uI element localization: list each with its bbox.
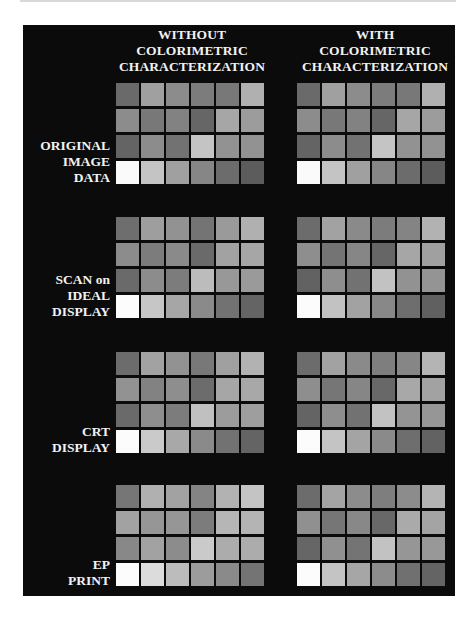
color-patch: [397, 404, 420, 427]
color-patch: [216, 511, 239, 534]
color-patch: [166, 135, 189, 158]
color-patch: [216, 537, 239, 560]
color-patch: [422, 217, 445, 240]
color-patch: [166, 83, 189, 106]
color-patch: [422, 430, 445, 453]
row-label-ep: EP PRINT: [23, 557, 110, 589]
column-header-line: COLORIMETRIC: [116, 43, 268, 59]
color-patch: [166, 269, 189, 292]
color-patch: [216, 135, 239, 158]
color-patch: [141, 109, 164, 132]
color-patch: [141, 537, 164, 560]
color-patch: [116, 563, 139, 586]
color-patch: [322, 83, 345, 106]
color-patch: [241, 135, 264, 158]
color-patch: [166, 161, 189, 184]
color-patch: [216, 269, 239, 292]
row-label-line: IMAGE: [23, 154, 110, 170]
color-patch: [397, 83, 420, 106]
color-patch: [322, 109, 345, 132]
color-patch: [297, 243, 320, 266]
color-patch: [347, 109, 370, 132]
color-patch: [116, 537, 139, 560]
color-patch: [372, 83, 395, 106]
color-patch: [116, 378, 139, 401]
color-patch: [191, 295, 214, 318]
color-patch: [141, 430, 164, 453]
color-patch: [191, 511, 214, 534]
color-patch: [397, 161, 420, 184]
color-patch: [241, 295, 264, 318]
color-patch: [297, 352, 320, 375]
color-patch: [241, 83, 264, 106]
color-patch: [166, 295, 189, 318]
color-patch: [166, 378, 189, 401]
color-patch: [141, 269, 164, 292]
color-patch: [166, 404, 189, 427]
color-patch: [166, 217, 189, 240]
color-patch: [141, 243, 164, 266]
color-patch: [347, 269, 370, 292]
color-patch: [372, 217, 395, 240]
color-patch: [166, 430, 189, 453]
color-patch: [166, 563, 189, 586]
color-patch: [141, 404, 164, 427]
color-patch: [322, 295, 345, 318]
color-patch: [422, 352, 445, 375]
color-patch: [141, 83, 164, 106]
color-patch: [241, 537, 264, 560]
patch-grid-ep-without: [116, 485, 264, 586]
color-patch: [166, 109, 189, 132]
row-label-line: ORIGINAL: [23, 138, 110, 154]
color-patch: [166, 485, 189, 508]
column-header-line: CHARACTERIZATION: [297, 59, 453, 75]
color-patch: [116, 269, 139, 292]
color-patch: [216, 404, 239, 427]
color-patch: [397, 378, 420, 401]
color-patch: [141, 135, 164, 158]
color-patch: [216, 378, 239, 401]
column-header-line: WITH: [297, 27, 453, 43]
color-patch: [141, 217, 164, 240]
color-patch: [166, 537, 189, 560]
column-header-line: WITHOUT: [116, 27, 268, 43]
color-patch: [191, 135, 214, 158]
color-patch: [191, 485, 214, 508]
color-patch: [347, 295, 370, 318]
patch-grid-ep-with: [297, 485, 445, 586]
color-patch: [241, 243, 264, 266]
color-patch: [397, 511, 420, 534]
color-patch: [116, 217, 139, 240]
color-patch: [116, 404, 139, 427]
color-patch: [241, 404, 264, 427]
patch-grid-original-with: [297, 83, 445, 184]
color-patch: [241, 563, 264, 586]
color-patch: [397, 537, 420, 560]
color-patch: [397, 243, 420, 266]
color-patch: [322, 511, 345, 534]
color-patch: [297, 269, 320, 292]
color-patch: [422, 404, 445, 427]
color-patch: [397, 109, 420, 132]
color-patch: [116, 109, 139, 132]
color-patch: [191, 161, 214, 184]
color-patch: [116, 161, 139, 184]
color-patch: [297, 563, 320, 586]
color-patch: [422, 243, 445, 266]
color-patch: [241, 161, 264, 184]
color-patch: [297, 295, 320, 318]
color-patch: [116, 352, 139, 375]
color-patch: [372, 352, 395, 375]
color-patch: [347, 83, 370, 106]
color-patch: [422, 563, 445, 586]
color-patch: [116, 295, 139, 318]
color-patch: [422, 83, 445, 106]
color-patch: [422, 109, 445, 132]
patch-grid-original-without: [116, 83, 264, 184]
color-patch: [322, 378, 345, 401]
color-patch: [116, 243, 139, 266]
column-header-line: CHARACTERIZATION: [116, 59, 268, 75]
color-patch: [372, 109, 395, 132]
color-patch: [297, 135, 320, 158]
row-label-line: DISPLAY: [23, 304, 110, 320]
